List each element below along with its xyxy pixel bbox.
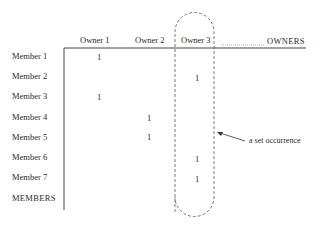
- row-label-member-7: Member 7: [12, 173, 47, 182]
- row-label-member-2: Member 2: [12, 72, 47, 81]
- members-axis-label: MEMBERS: [12, 194, 56, 203]
- set-occurrence-label: a set occurrence: [249, 137, 301, 145]
- row-label-member-3: Member 3: [12, 92, 47, 101]
- cell-member-3-owner-1: 1: [97, 93, 101, 102]
- cell-member-4-owner-2: 1: [147, 114, 151, 123]
- cell-member-2-owner-3: 1: [195, 74, 199, 83]
- row-label-member-5: Member 5: [12, 133, 47, 142]
- column-header-owner-2: Owner 2: [135, 36, 165, 45]
- cell-member-1-owner-1: 1: [97, 53, 101, 62]
- row-label-member-6: Member 6: [12, 153, 47, 162]
- column-header-owner-3: Owner 3: [181, 36, 211, 45]
- annotation-arrow-line: [220, 133, 245, 141]
- row-label-member-4: Member 4: [12, 113, 47, 122]
- owners-axis-label: OWNERS: [267, 37, 305, 46]
- column-header-owner-1: Owner 1: [80, 36, 110, 45]
- row-label-member-1: Member 1: [12, 52, 47, 61]
- cell-member-5-owner-2: 1: [147, 133, 151, 142]
- cell-member-6-owner-3: 1: [195, 155, 199, 164]
- cell-member-7-owner-3: 1: [195, 175, 199, 184]
